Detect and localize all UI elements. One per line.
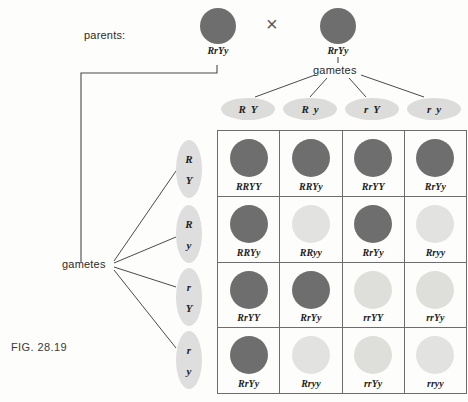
offspring-seed — [416, 139, 454, 177]
offspring-seed — [292, 271, 330, 309]
offspring-seed: M6,12 q8,-8 15,-2 q5,5 0,9 q-8,5 -14,0 q… — [416, 271, 454, 309]
offspring-genotype: rrYy — [405, 312, 466, 323]
top-gamete-2-allele-1: R — [301, 103, 308, 115]
punnett-cell: Rryy — [405, 197, 466, 262]
top-gamete-3: r Y — [345, 98, 399, 120]
parent-2-genotype: RrYy — [318, 45, 358, 56]
punnett-square: RRYY RRYy RrYY RrYy RRYy RRyy RrYy — [217, 130, 467, 394]
figure-canvas: parents: RrYy × RrYy gametes R Y R y r Y… — [0, 0, 468, 402]
top-gamete-2-allele-2: y — [314, 103, 319, 115]
punnett-cell: Rryy — [280, 328, 341, 393]
left-gamete-1-allele-2: Y — [186, 174, 193, 186]
offspring-genotype: Rryy — [405, 247, 466, 258]
offspring-seed — [354, 205, 392, 243]
figure-number: FIG. 28.19 — [11, 341, 67, 353]
punnett-cell: M7,13 q6,-7 13,-3 q7,4 3,9 q-5,5 -11,2 q… — [343, 263, 404, 328]
punnett-cell: M9,11 q9,-6 15,1 q4,5 -2,8 q-9,4 -14,-2 … — [343, 328, 404, 393]
offspring-seed — [292, 139, 330, 177]
punnett-cell: RRYy — [280, 131, 341, 196]
offspring-genotype: RRYY — [218, 181, 279, 192]
punnett-cell: RrYy — [343, 197, 404, 262]
left-gamete-1-allele-1: R — [185, 153, 192, 165]
offspring-genotype: RrYY — [218, 312, 279, 323]
punnett-cell: M6,12 q8,-8 15,-2 q5,5 0,9 q-8,5 -14,0 q… — [405, 263, 466, 328]
punnett-cell: RrYy — [218, 328, 279, 393]
parent-2-seed — [320, 8, 356, 44]
offspring-genotype: RrYy — [218, 378, 279, 389]
left-gamete-2: R y — [176, 205, 202, 263]
top-gamete-4: r y — [407, 98, 461, 120]
top-gamete-1-allele-1: R — [238, 103, 245, 115]
offspring-seed — [230, 271, 268, 309]
top-gamete-1: R Y — [221, 98, 275, 120]
top-gamete-3-allele-2: Y — [373, 103, 380, 115]
left-gamete-1: R Y — [176, 140, 202, 198]
left-gamete-4: r y — [176, 331, 202, 389]
left-gamete-3: r Y — [176, 268, 202, 326]
punnett-cell: RrYY — [218, 263, 279, 328]
offspring-seed — [292, 205, 330, 243]
cross-symbol: × — [266, 14, 278, 34]
offspring-genotype: Rryy — [280, 378, 341, 389]
offspring-genotype: RrYY — [343, 181, 404, 192]
offspring-genotype: RRYy — [218, 247, 279, 258]
punnett-cell: RRYY — [218, 131, 279, 196]
offspring-seed — [230, 139, 268, 177]
offspring-genotype: rrYy — [343, 378, 404, 389]
left-gamete-4-allele-2: y — [187, 365, 192, 377]
punnett-cell: RrYy — [280, 263, 341, 328]
offspring-seed — [416, 205, 454, 243]
offspring-genotype: RrYy — [343, 247, 404, 258]
offspring-genotype: RRyy — [280, 247, 341, 258]
offspring-genotype: RrYy — [280, 312, 341, 323]
punnett-cell: RrYY — [343, 131, 404, 196]
gametes-label-left: gametes — [62, 258, 106, 270]
left-gamete-4-allele-1: r — [187, 344, 191, 356]
top-gamete-3-allele-1: r — [364, 103, 368, 115]
offspring-seed — [230, 336, 268, 374]
gametes-label-top: gametes — [313, 64, 357, 76]
punnett-cell: rryy — [405, 328, 466, 393]
top-gamete-4-allele-1: r — [427, 103, 431, 115]
left-gamete-3-allele-1: r — [187, 281, 191, 293]
offspring-genotype: rryy — [405, 378, 466, 389]
offspring-seed — [292, 336, 330, 374]
offspring-genotype: rrYY — [343, 312, 404, 323]
offspring-genotype: RrYy — [405, 181, 466, 192]
offspring-seed — [230, 205, 268, 243]
punnett-cell: RRyy — [280, 197, 341, 262]
parents-label: parents: — [84, 29, 125, 41]
left-gamete-2-allele-1: R — [185, 218, 192, 230]
left-gamete-3-allele-2: Y — [186, 302, 193, 314]
parent-1-genotype: RrYy — [198, 45, 238, 56]
offspring-seed — [354, 139, 392, 177]
left-gamete-2-allele-2: y — [187, 239, 192, 251]
punnett-cell: RrYy — [405, 131, 466, 196]
offspring-seed: M9,11 q9,-6 15,1 q4,5 -2,8 q-9,4 -14,-2 … — [354, 336, 392, 374]
parent-1-seed — [200, 8, 236, 44]
top-gamete-2: R y — [283, 98, 337, 120]
offspring-seed — [416, 336, 454, 374]
punnett-cell: RRYy — [218, 197, 279, 262]
offspring-seed: M7,13 q6,-7 13,-3 q7,4 3,9 q-5,5 -11,2 q… — [354, 271, 392, 309]
top-gamete-4-allele-2: y — [436, 103, 441, 115]
top-gamete-1-allele-2: Y — [251, 103, 258, 115]
offspring-genotype: RRYy — [280, 181, 341, 192]
